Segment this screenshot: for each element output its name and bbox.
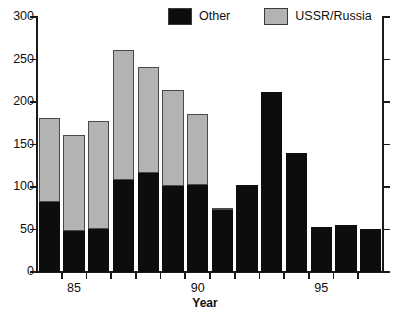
bar-segment-other-91 [212,210,233,272]
bar-94 [286,153,307,272]
bar-91 [212,208,233,272]
x-tick-4 [160,272,162,279]
bar-segment-other-92 [236,185,257,272]
y-tick-right-150 [383,144,390,145]
y-tick-label-100: 100 [4,179,34,193]
x-tick-9 [283,272,285,279]
bar-segment-other-85 [63,231,84,272]
bar-97 [360,229,381,272]
x-axis-title: Year [0,296,410,310]
x-tick-12 [357,272,359,279]
x-tick-8 [259,272,261,279]
y-tick-label-50: 50 [4,222,34,236]
x-tick-7 [234,272,236,279]
x-tick-6 [209,272,211,279]
bar-segment-ussr-russia-89 [162,90,183,186]
y-tick-label-250: 250 [4,52,34,66]
x-tick-label-85: 85 [67,281,81,295]
y-tick-right-300 [383,16,390,17]
bar-85 [63,135,84,272]
y-tick-right-0 [383,271,390,272]
bar-segment-other-84 [39,202,60,272]
x-tick-0 [61,272,63,279]
y-tick-right-50 [383,229,390,230]
bar-segment-other-86 [88,229,109,272]
bar-segment-ussr-russia-88 [138,67,159,173]
bar-87 [113,50,134,272]
y-tick-right-100 [383,186,390,187]
bar-segment-ussr-russia-87 [113,50,134,180]
y-tick-right-200 [383,101,390,102]
bar-segment-other-93 [261,92,282,272]
bar-segment-ussr-russia-84 [39,118,60,202]
bar-92 [236,185,257,272]
bar-86 [88,121,109,272]
plot-area [37,17,383,272]
bar-chart: Other USSR/Russia 050100150200250300 859… [0,0,410,315]
y-tick-label-300: 300 [4,9,34,23]
bar-96 [335,225,356,272]
bar-segment-other-88 [138,173,159,272]
x-tick-1 [86,272,88,279]
x-tick-3 [135,272,137,279]
y-tick-right-250 [383,59,390,60]
bar-84 [39,118,60,272]
bar-88 [138,67,159,272]
bar-segment-other-90 [187,185,208,272]
bar-segment-ussr-russia-86 [88,121,109,229]
bar-segment-ussr-russia-85 [63,135,84,231]
bar-segment-other-94 [286,153,307,272]
bar-segment-ussr-russia-90 [187,114,208,185]
x-tick-label-95: 95 [314,281,328,295]
bar-segment-ussr-russia-91 [212,208,233,210]
bar-segment-other-95 [311,227,332,272]
y-tick-label-200: 200 [4,94,34,108]
bar-segment-other-96 [335,225,356,272]
x-tick-2 [110,272,112,279]
bar-segment-other-97 [360,229,381,272]
bar-89 [162,90,183,272]
bar-segment-other-87 [113,180,134,272]
x-tick-5 [184,272,186,279]
bar-93 [261,92,282,272]
bar-segment-other-89 [162,186,183,272]
y-tick-label-150: 150 [4,137,34,151]
x-tick-label-90: 90 [191,281,205,295]
bar-90 [187,114,208,272]
x-tick-10 [308,272,310,279]
x-tick-11 [333,272,335,279]
bar-95 [311,227,332,272]
y-tick-label-0: 0 [4,264,34,278]
